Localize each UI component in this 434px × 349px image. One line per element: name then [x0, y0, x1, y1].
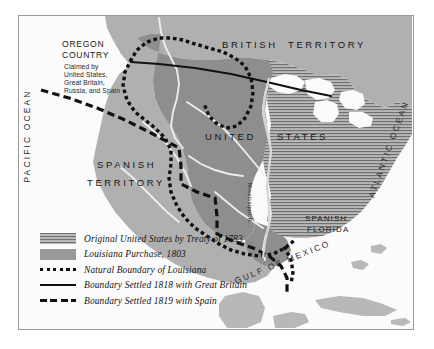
legend-label-boundary-1819: Boundary Settled 1819 with Spain [84, 296, 217, 306]
legend-item-natural-boundary: Natural Boundary of Louisiana [40, 262, 265, 278]
solid-swatch-icon [40, 249, 76, 260]
map-legend: Original United States by Treaty of 1783… [40, 231, 265, 309]
legend-label-boundary-1818: Boundary Settled 1818 with Great Britain [84, 280, 247, 290]
dotted-line-icon [40, 264, 76, 275]
dashed-line-icon [40, 295, 76, 306]
legend-item-original-us: Original United States by Treaty of 1783 [40, 231, 265, 247]
legend-label-natural-boundary: Natural Boundary of Louisiana [84, 265, 206, 275]
legend-item-boundary-1819: Boundary Settled 1819 with Spain [40, 293, 265, 309]
hatch-swatch-icon [40, 233, 76, 244]
legend-label-original-us: Original United States by Treaty of 1783 [84, 234, 243, 244]
historical-map-figure: BRITISH TERRITORY UNITED STATES SPANISH … [0, 0, 434, 349]
solid-line-icon [40, 280, 76, 291]
legend-item-boundary-1818: Boundary Settled 1818 with Great Britain [40, 278, 265, 294]
legend-label-louisiana-purchase: Louisiana Purchase, 1803 [84, 249, 186, 259]
legend-item-louisiana-purchase: Louisiana Purchase, 1803 [40, 247, 265, 263]
